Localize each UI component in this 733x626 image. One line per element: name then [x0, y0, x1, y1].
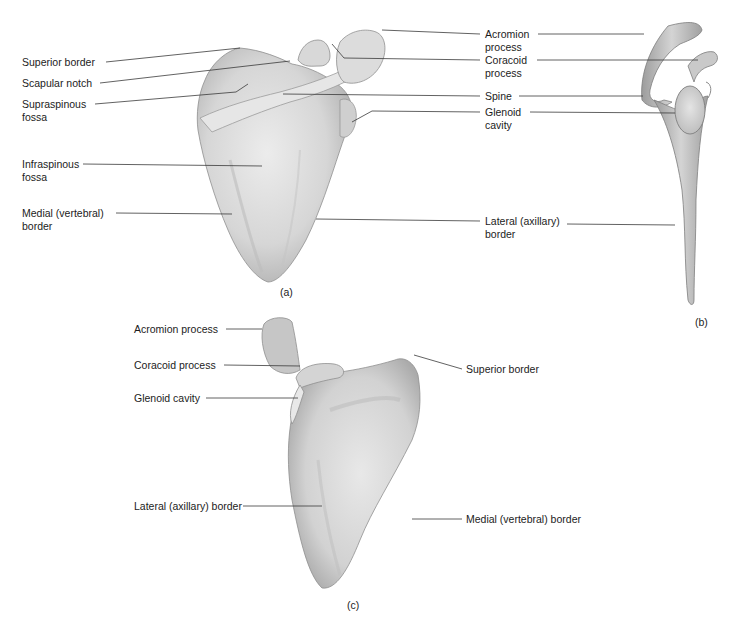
label-line: Lateral (axillary) — [485, 215, 560, 228]
label-line: process — [485, 41, 529, 54]
label-superior-border-a: Superior border — [22, 56, 95, 69]
label-spine: Spine — [485, 90, 512, 103]
label-superior-border-c: Superior border — [466, 363, 539, 376]
label-line: border — [22, 220, 104, 233]
label-line: fossa — [22, 111, 86, 124]
label-acromion-process-c: Acromion process — [134, 323, 218, 336]
label-scapular-notch: Scapular notch — [22, 77, 92, 90]
label-glenoid-cavity-a: Glenoid cavity — [485, 106, 521, 131]
label-acromion-process-a: Acromion process — [485, 28, 529, 53]
label-supraspinous-fossa: Supraspinous fossa — [22, 98, 86, 123]
scapula-posterior-view — [197, 30, 385, 282]
scapula-lateral-view — [642, 23, 718, 305]
label-glenoid-cavity-c: Glenoid cavity — [134, 392, 200, 405]
label-line: fossa — [22, 171, 79, 184]
label-lateral-axillary-border-c: Lateral (axillary) border — [134, 500, 242, 513]
scapula-anterior-view — [262, 318, 420, 588]
label-line: process — [485, 67, 527, 80]
label-coracoid-process-a: Coracoid process — [485, 54, 527, 79]
label-line: Glenoid — [485, 106, 521, 119]
label-line: border — [485, 228, 560, 241]
label-lateral-axillary-border-a: Lateral (axillary) border — [485, 215, 560, 240]
label-infraspinous-fossa: Infraspinous fossa — [22, 158, 79, 183]
scapula-figure: Superior border Scapular notch Supraspin… — [0, 0, 733, 626]
scapula-illustrations — [0, 0, 733, 626]
caption-panel-c: (c) — [347, 599, 359, 611]
label-coracoid-process-c: Coracoid process — [134, 359, 216, 372]
label-medial-vertebral-border-a: Medial (vertebral) border — [22, 207, 104, 232]
label-medial-vertebral-border-c: Medial (vertebral) border — [466, 513, 581, 526]
label-line: cavity — [485, 119, 521, 132]
label-line: Medial (vertebral) — [22, 207, 104, 220]
caption-panel-a: (a) — [280, 286, 293, 298]
label-line: Supraspinous — [22, 98, 86, 111]
label-line: Acromion — [485, 28, 529, 41]
label-line: Coracoid — [485, 54, 527, 67]
caption-panel-b: (b) — [695, 316, 708, 328]
label-line: Infraspinous — [22, 158, 79, 171]
